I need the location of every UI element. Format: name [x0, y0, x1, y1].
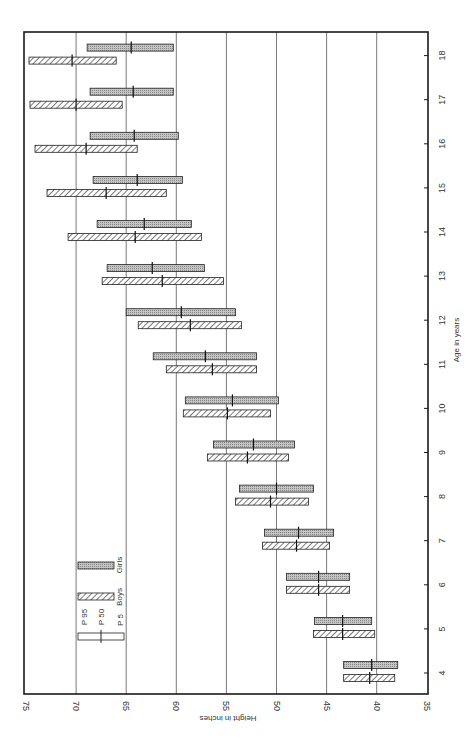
height-tick-label: 75: [21, 701, 31, 711]
legend-p50-label: P 50: [97, 608, 106, 625]
boys-range-bar: [166, 366, 256, 373]
age-tick-label: 10: [437, 403, 447, 413]
age-axis-title: Age in years: [452, 318, 461, 362]
girls-range-bar: [87, 44, 173, 51]
age-tick-label: 6: [437, 582, 447, 587]
age-tick-label: 11: [437, 360, 447, 369]
legend-girls-swatch: [78, 562, 114, 569]
age-tick-label: 18: [437, 51, 447, 61]
legend-girls-label: Girls: [115, 557, 124, 573]
height-axis-ticks: 757065605550454035: [21, 701, 432, 711]
legend-p5-label: P 5: [116, 614, 125, 626]
girls-range-bar: [344, 662, 398, 669]
age-tick-label: 5: [437, 626, 447, 631]
legend-boys-label: Boys: [115, 588, 124, 606]
age-tick-label: 16: [437, 139, 447, 149]
boys-range-bar: [235, 498, 308, 505]
height-tick-label: 60: [171, 701, 181, 711]
age-tick-label: 15: [437, 183, 447, 193]
age-tick-label: 9: [437, 450, 447, 455]
height-tick-label: 40: [372, 701, 382, 711]
height-tick-label: 35: [422, 701, 432, 711]
height-tick-label: 70: [71, 701, 81, 711]
age-tick-label: 12: [437, 315, 447, 325]
height-tick-label: 45: [322, 701, 332, 711]
age-tick-label: 13: [437, 271, 447, 281]
age-tick-label: 14: [437, 227, 447, 237]
age-tick-label: 4: [437, 670, 447, 675]
boys-range-bar: [314, 630, 375, 637]
growth-chart: 757065605550454035 456789101112131415161…: [0, 0, 476, 749]
height-axis-title: Height in inches: [200, 714, 257, 723]
height-tick-label: 50: [272, 701, 282, 711]
bars: [29, 42, 398, 684]
legend-p95-label: P 95: [80, 608, 89, 625]
girls-range-bar: [107, 265, 204, 272]
girls-range-bar: [90, 88, 173, 95]
legend-boys-swatch: [78, 593, 114, 600]
height-tick-label: 65: [121, 701, 131, 711]
age-tick-label: 8: [437, 494, 447, 499]
age-tick-label: 7: [437, 538, 447, 543]
legend: Girls Boys P 95 P 50 P 5: [78, 557, 125, 643]
height-tick-label: 55: [221, 701, 231, 711]
age-tick-label: 17: [437, 95, 447, 105]
